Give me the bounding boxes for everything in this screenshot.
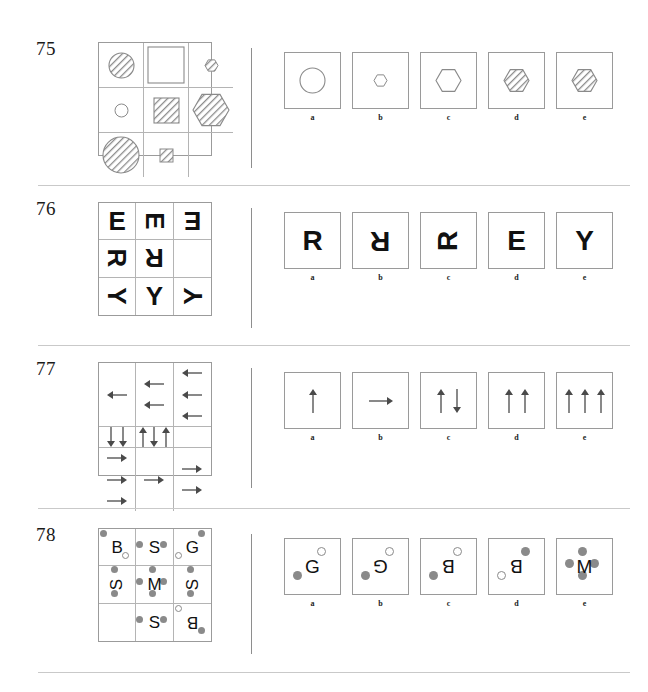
option-c[interactable]: B c (420, 538, 477, 608)
letter-glyph: Y (179, 288, 205, 305)
option-box-a[interactable]: G (284, 538, 341, 595)
option-label-a: a (311, 434, 315, 442)
dot-open-bl (497, 571, 506, 580)
matrix-cell-r3c3: Y (174, 278, 211, 315)
dot-filled-bl (293, 571, 302, 580)
stimulus-matrix: EEERRYYY (98, 202, 212, 316)
option-box-a[interactable] (284, 52, 341, 109)
option-label-d: d (514, 114, 518, 122)
option-box-b[interactable] (352, 372, 409, 429)
matrix-cell-r1c3: G (174, 529, 211, 566)
arrow-up (138, 427, 148, 447)
arrow-up (596, 389, 606, 413)
arrow-left (149, 374, 159, 394)
option-b[interactable]: R b (352, 212, 409, 282)
arrow-right (112, 448, 122, 468)
option-box-b[interactable] (352, 52, 409, 109)
option-a[interactable]: G a (284, 538, 341, 608)
option-box-c[interactable]: B (420, 538, 477, 595)
arrow-up (564, 389, 574, 413)
option-box-e[interactable]: M (556, 538, 613, 595)
option-label-e: e (583, 434, 587, 442)
letter-glyph: E (507, 227, 526, 255)
section-rule-4 (38, 672, 630, 673)
letter-glyph: B (111, 539, 122, 556)
arrow-down (149, 427, 159, 447)
option-label-a: a (311, 114, 315, 122)
option-label-a: a (311, 274, 315, 282)
option-box-e[interactable] (556, 52, 613, 109)
option-c[interactable]: c (420, 372, 477, 442)
option-d[interactable]: d (488, 52, 545, 122)
problem-number: 78 (36, 524, 56, 546)
dot-filled-b (111, 590, 118, 597)
dot-filled-l (136, 541, 143, 548)
dot-filled-t (149, 566, 156, 573)
option-d[interactable]: B d (488, 538, 545, 608)
option-label-a: a (311, 600, 315, 608)
dot-filled-l (136, 616, 143, 623)
option-e[interactable]: e (556, 372, 613, 442)
option-a[interactable]: a (284, 372, 341, 442)
option-box-c[interactable] (420, 52, 477, 109)
option-label-e: e (583, 274, 587, 282)
option-box-e[interactable] (556, 372, 613, 429)
dot-filled-l (136, 578, 143, 585)
option-box-c[interactable] (420, 372, 477, 429)
option-b[interactable]: G b (352, 538, 409, 608)
option-box-b[interactable]: G (352, 538, 409, 595)
option-c[interactable]: R c (420, 212, 477, 282)
matrix-cell-r2c3 (174, 427, 211, 448)
matrix-cell-r3c1 (99, 133, 144, 177)
arrow-group (187, 459, 197, 501)
option-box-d[interactable]: B (488, 538, 545, 595)
stimulus-matrix: B S G S M S S B (98, 528, 212, 642)
arrow-right (112, 470, 122, 490)
arrow-group (112, 448, 122, 511)
letter-glyph: E (184, 208, 201, 234)
matrix-cell-r3c2 (144, 133, 189, 177)
option-box-e[interactable]: Y (556, 212, 613, 269)
letter-glyph: R (104, 249, 130, 268)
option-label-c: c (447, 114, 451, 122)
matrix-cell-r1c3: E (174, 203, 211, 240)
matrix-cell-r3c2 (136, 448, 173, 511)
dot-filled-r (160, 541, 167, 548)
matrix-cell-r2c1: R (99, 240, 136, 277)
option-b[interactable]: b (352, 52, 409, 122)
arrow-group (106, 427, 128, 447)
worksheet-page: 75 a b c d (0, 0, 648, 692)
option-e[interactable]: M e (556, 538, 613, 608)
arrow-up (161, 427, 171, 447)
option-a[interactable]: R a (284, 212, 341, 282)
option-box-a[interactable] (284, 372, 341, 429)
option-d[interactable]: d (488, 372, 545, 442)
matrix-cell-r3c3: B (174, 604, 211, 641)
option-label-b: b (378, 114, 382, 122)
option-box-d[interactable] (488, 372, 545, 429)
option-box-d[interactable]: E (488, 212, 545, 269)
option-box-b[interactable]: R (352, 212, 409, 269)
matrix-cell-r2c2: R (136, 240, 173, 277)
letter-glyph: M (147, 576, 161, 593)
dot-open-tl (175, 605, 182, 612)
option-c[interactable]: c (420, 52, 477, 122)
matrix-cell-r2c1 (99, 427, 136, 448)
option-d[interactable]: E d (488, 212, 545, 282)
option-box-c[interactable]: R (420, 212, 477, 269)
section-divider (251, 534, 252, 654)
option-e[interactable]: e (556, 52, 613, 122)
dot-open-bl (175, 552, 182, 559)
option-e[interactable]: Y e (556, 212, 613, 282)
option-b[interactable]: b (352, 372, 409, 442)
answer-options: a b c d (284, 372, 613, 442)
option-box-d[interactable] (488, 52, 545, 109)
option-box-a[interactable]: R (284, 212, 341, 269)
dot-filled-tl (100, 530, 107, 537)
option-a[interactable]: a (284, 52, 341, 122)
dot-open-br (122, 552, 129, 559)
arrow-right (149, 470, 159, 490)
matrix-cell-r1c2: S (136, 529, 173, 566)
stimulus-matrix (98, 42, 212, 156)
letter-glyph: R (370, 227, 390, 255)
